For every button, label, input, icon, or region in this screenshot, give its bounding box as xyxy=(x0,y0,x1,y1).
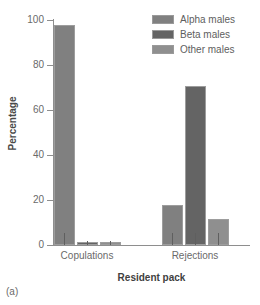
x-axis-title: Resident pack xyxy=(53,272,250,283)
y-tick-mark xyxy=(47,110,53,111)
bar-beta-males-rejections xyxy=(185,86,206,245)
bar-alpha-males-copulations xyxy=(54,25,75,246)
y-tick-label: 20 xyxy=(4,195,44,205)
y-tick-mark xyxy=(47,65,53,66)
figure-caption: (a) xyxy=(6,286,18,297)
y-tick-mark xyxy=(47,155,53,156)
bar-base-tick xyxy=(87,241,88,245)
bar-base-tick xyxy=(110,241,111,245)
bar-base-tick xyxy=(64,233,65,245)
y-tick-label: 80 xyxy=(4,60,44,70)
y-tick-label: 100 xyxy=(4,15,44,25)
y-tick-label: 0 xyxy=(4,240,44,250)
y-axis-title: Percentage xyxy=(7,79,18,169)
y-tick-mark xyxy=(47,245,53,246)
bar-base-tick xyxy=(218,233,219,245)
y-tick-mark xyxy=(47,20,53,21)
x-tick-label: Rejections xyxy=(145,250,245,261)
figure-panel: Alpha males Beta males Other males 10080… xyxy=(0,0,260,305)
y-tick-mark xyxy=(47,200,53,201)
bar-base-tick xyxy=(172,233,173,245)
bar-base-tick xyxy=(195,233,196,245)
x-axis-line xyxy=(53,245,250,246)
x-tick-label: Copulations xyxy=(37,250,137,261)
plot-area: 100806040200 CopulationsRejections Perce… xyxy=(0,0,260,305)
